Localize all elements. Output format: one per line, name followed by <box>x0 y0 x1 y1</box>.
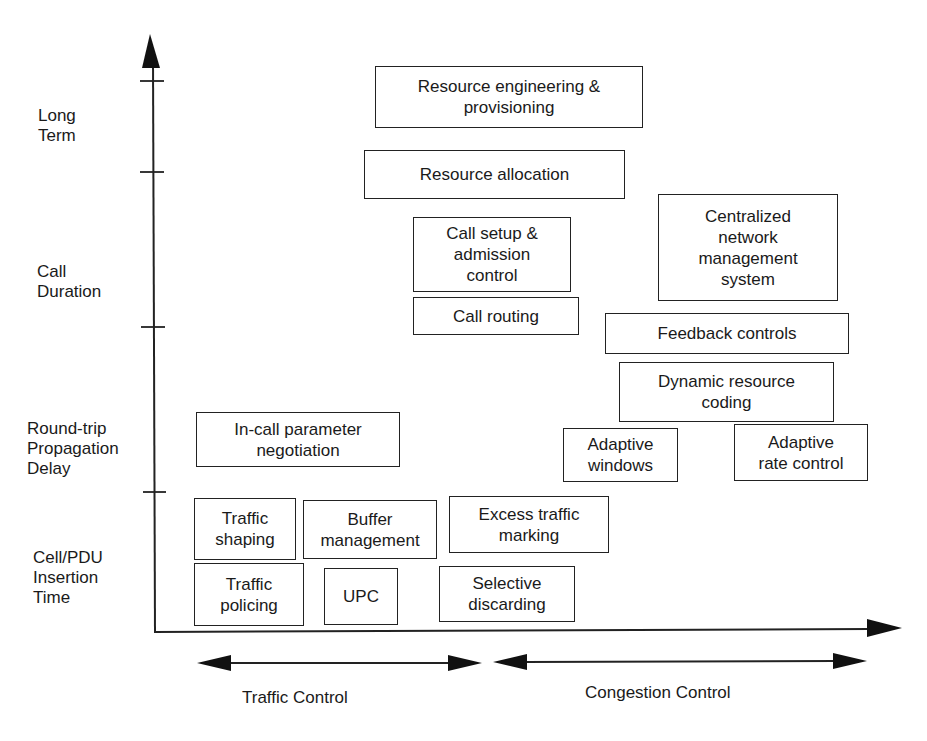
box-adaptive-rate-control: Adaptive rate control <box>734 424 868 481</box>
box-resource-engineering: Resource engineering & provisioning <box>375 66 643 128</box>
y-label-cell-pdu: Cell/PDU Insertion Time <box>33 548 103 608</box>
box-selective-discarding: Selective discarding <box>439 566 575 622</box>
box-traffic-policing: Traffic policing <box>194 563 304 626</box>
x-label-congestion-control: Congestion Control <box>585 683 731 703</box>
box-in-call-negotiation: In-call parameter negotiation <box>196 412 400 467</box>
box-call-routing: Call routing <box>413 297 579 335</box>
box-upc: UPC <box>324 568 398 625</box>
x-label-traffic-control: Traffic Control <box>242 688 348 708</box>
box-buffer-management: Buffer management <box>303 500 437 559</box>
y-label-long-term: Long Term <box>38 106 76 146</box>
y-label-call-duration: Call Duration <box>37 262 101 302</box>
box-resource-allocation: Resource allocation <box>364 150 625 199</box>
box-excess-traffic-marking: Excess traffic marking <box>449 496 609 553</box>
box-adaptive-windows: Adaptive windows <box>563 428 678 482</box>
box-traffic-shaping: Traffic shaping <box>194 498 296 560</box>
box-dynamic-resource-coding: Dynamic resource coding <box>619 362 834 422</box>
box-feedback-controls: Feedback controls <box>605 313 849 354</box>
box-call-setup: Call setup & admission control <box>413 217 571 292</box>
y-label-round-trip: Round-trip Propagation Delay <box>27 419 119 479</box>
box-centralized-nms: Centralized network management system <box>658 194 838 301</box>
